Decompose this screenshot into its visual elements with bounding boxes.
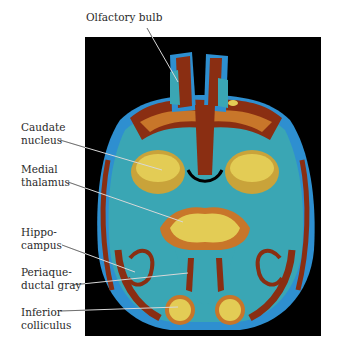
label-medial-thalamus: Medial thalamus <box>21 163 70 189</box>
label-caudate-nucleus: Caudate nucleus <box>21 121 65 147</box>
label-hippocampus: Hippo- campus <box>21 226 62 252</box>
label-olfactory-bulb: Olfactory bulb <box>86 11 162 24</box>
label-inferior-colliculus: Inferior colliculus <box>21 306 71 332</box>
label-periaqueductal-gray: Periaque- ductal gray <box>21 266 81 292</box>
